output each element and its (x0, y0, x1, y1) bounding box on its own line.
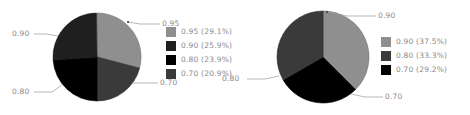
left-slice-label-1: 0.90 (12, 29, 30, 38)
left-slice-label-2: 0.80 (12, 87, 30, 96)
legend-item[interactable]: 0.90 (37.5%) (381, 36, 447, 47)
legend-item-label: 0.80 (23.9%) (181, 55, 232, 65)
legend-swatch-icon (166, 55, 176, 65)
right-legend: 0.90 (37.5%) 0.80 (33.3%) 0.70 (29.2%) (381, 36, 447, 75)
legend-item-label: 0.70 (29.2%) (396, 65, 447, 75)
legend-item-label: 0.95 (29.1%) (181, 27, 232, 37)
left-legend: 0.95 (29.1%) 0.90 (25.9%) 0.80 (23.9%) 0… (166, 26, 232, 79)
legend-swatch-icon (166, 41, 176, 51)
legend-item-label: 0.90 (37.5%) (396, 37, 447, 47)
pie-chart-figure: 0.95 0.90 0.80 0.70 0.95 (29.1%) 0.90 (2… (0, 0, 470, 115)
right-slice-label-0: 0.90 (378, 11, 396, 20)
legend-swatch-icon (166, 69, 176, 79)
legend-item[interactable]: 0.90 (25.9%) (166, 40, 232, 51)
legend-item[interactable]: 0.80 (33.3%) (381, 50, 447, 61)
legend-item[interactable]: 0.80 (23.9%) (166, 54, 232, 65)
legend-item-label: 0.90 (25.9%) (181, 41, 232, 51)
right-slice-label-2: 0.70 (385, 92, 403, 101)
left-chart-panel: 0.95 0.90 0.80 0.70 0.95 (29.1%) 0.90 (2… (0, 0, 235, 115)
legend-swatch-icon (166, 27, 176, 37)
left-slice-label-3: 0.70 (160, 78, 178, 87)
legend-swatch-icon (381, 51, 391, 61)
left-pie-slice-1[interactable] (53, 13, 97, 60)
right-leader-dots (326, 11, 328, 13)
right-chart-panel: 0.90 0.80 0.70 0.90 (37.5%) 0.80 (33.3%)… (235, 0, 470, 115)
legend-swatch-icon (381, 65, 391, 75)
legend-item[interactable]: 0.70 (29.2%) (381, 64, 447, 75)
legend-item-label: 0.80 (33.3%) (396, 51, 447, 61)
left-pie-slice-2[interactable] (53, 57, 97, 101)
right-slice-label-1: 0.80 (222, 74, 240, 83)
legend-item[interactable]: 0.95 (29.1%) (166, 26, 232, 37)
legend-swatch-icon (381, 37, 391, 47)
